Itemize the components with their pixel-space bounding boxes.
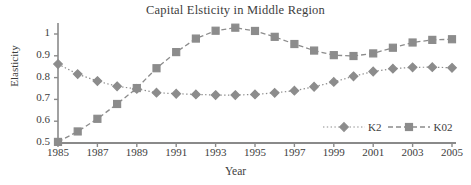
data-point-marker <box>211 91 220 100</box>
x-tick-label: 2005 <box>432 146 471 158</box>
chart-legend: K2K02 <box>322 115 458 131</box>
data-point-marker <box>172 89 181 98</box>
data-point-marker <box>231 91 240 100</box>
legend-label: K2 <box>368 121 381 133</box>
data-point-marker <box>252 27 259 34</box>
data-point-marker <box>448 63 457 72</box>
data-point-marker <box>389 64 398 73</box>
data-point-marker <box>153 65 160 72</box>
legend-swatch-K02 <box>387 120 431 134</box>
data-point-marker <box>152 88 161 97</box>
series-K2 <box>54 60 457 100</box>
x-tick-label: 1985 <box>38 146 78 158</box>
data-point-marker <box>133 85 140 92</box>
data-point-marker <box>94 115 101 122</box>
x-tick-label: 1987 <box>77 146 117 158</box>
data-point-marker <box>54 60 63 69</box>
data-point-marker <box>370 50 377 57</box>
data-point-marker <box>271 33 278 40</box>
data-point-marker <box>114 100 121 107</box>
data-point-marker <box>212 27 219 34</box>
data-point-marker <box>192 35 199 42</box>
y-tick-label: 0.7 <box>22 91 50 103</box>
data-point-marker <box>429 36 436 43</box>
legend-label: K02 <box>433 121 452 133</box>
data-point-marker <box>173 49 180 56</box>
data-point-marker <box>93 77 102 86</box>
data-point-marker <box>55 138 62 145</box>
y-tick-label: 1 <box>22 26 50 38</box>
data-point-marker <box>232 24 239 31</box>
x-tick-label: 2003 <box>393 146 433 158</box>
data-point-marker <box>406 123 413 130</box>
x-tick-label: 1997 <box>274 146 314 158</box>
data-point-marker <box>449 36 456 43</box>
data-point-marker <box>340 122 349 131</box>
legend-item-K2[interactable]: K2 <box>322 116 387 134</box>
data-point-marker <box>389 44 396 51</box>
data-point-marker <box>330 78 339 87</box>
data-point-marker <box>311 47 318 54</box>
data-point-marker <box>310 82 319 91</box>
y-tick-label: 0.8 <box>22 70 50 82</box>
data-point-marker <box>113 82 122 91</box>
data-point-marker <box>369 67 378 76</box>
y-tick-label: 0.9 <box>22 48 50 60</box>
data-point-marker <box>74 128 81 135</box>
data-point-marker <box>349 72 358 81</box>
legend-swatch-K2 <box>322 120 366 134</box>
data-point-marker <box>270 89 279 98</box>
x-tick-label: 1995 <box>235 146 275 158</box>
data-point-marker <box>251 90 260 99</box>
data-point-marker <box>330 52 337 59</box>
x-tick-label: 1989 <box>117 146 157 158</box>
legend-item-K02[interactable]: K02 <box>387 116 458 134</box>
data-point-marker <box>409 39 416 46</box>
data-point-marker <box>192 90 201 99</box>
data-point-marker <box>428 63 437 72</box>
x-tick-label: 1991 <box>156 146 196 158</box>
data-point-marker <box>350 53 357 60</box>
data-point-marker <box>290 86 299 95</box>
data-point-marker <box>408 63 417 72</box>
x-tick-label: 1993 <box>196 146 236 158</box>
y-tick-label: 0.6 <box>22 113 50 125</box>
data-point-marker <box>73 70 82 79</box>
chart-container: Capital Elsticity in Middle Region Elast… <box>0 0 471 185</box>
data-point-marker <box>291 41 298 48</box>
x-tick-label: 1999 <box>314 146 354 158</box>
x-axis-label: Year <box>0 165 471 177</box>
x-tick-label: 2001 <box>353 146 393 158</box>
